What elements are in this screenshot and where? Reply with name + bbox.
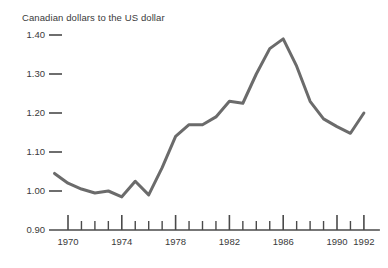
y-tick-label: 1.10: [27, 146, 46, 157]
line-chart-plot: 1.401.301.201.101.000.90 197019741978198…: [0, 0, 388, 268]
data-series-line: [55, 39, 364, 197]
y-axis-labels: 1.401.301.201.101.000.90: [27, 29, 46, 235]
x-tick-label: 1974: [111, 236, 132, 247]
x-tick-label: 1992: [353, 236, 374, 247]
x-tick-label: 1978: [165, 236, 186, 247]
y-tick-label: 1.40: [27, 29, 46, 40]
chart-container: Canadian dollars to the US dollar 1.401.…: [0, 0, 388, 268]
x-axis: [49, 215, 380, 230]
x-tick-label: 1970: [57, 236, 78, 247]
y-tick-label: 1.30: [27, 68, 46, 79]
y-tick-label: 1.00: [27, 185, 46, 196]
x-axis-labels: 1970197419781982198619901992: [57, 236, 374, 247]
x-tick-label: 1982: [219, 236, 240, 247]
y-axis-ticks: [49, 35, 62, 191]
y-tick-label: 1.20: [27, 107, 46, 118]
x-tick-label: 1986: [273, 236, 294, 247]
y-tick-label: 0.90: [27, 224, 46, 235]
x-tick-label: 1990: [326, 236, 347, 247]
